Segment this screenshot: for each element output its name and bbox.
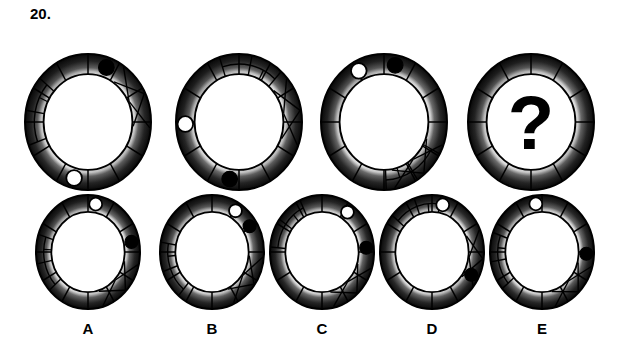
white-dot <box>351 63 367 79</box>
ladder-rung <box>498 248 506 249</box>
white-dot <box>529 197 542 210</box>
sequence-figure-1 <box>13 42 163 202</box>
sequence-figure-4: ? <box>456 42 606 202</box>
white-dot <box>436 198 449 211</box>
black-dot <box>99 60 115 76</box>
white-dot <box>178 116 194 132</box>
answer-option-c[interactable] <box>258 183 386 321</box>
answer-option-a[interactable] <box>24 183 152 321</box>
option-label-c: C <box>302 320 342 337</box>
answer-option-d[interactable] <box>368 183 496 321</box>
answer-option-e[interactable] <box>478 183 606 321</box>
option-label-d: D <box>412 320 452 337</box>
black-dot <box>387 57 403 73</box>
option-label-e: E <box>522 320 562 337</box>
sequence-figure-3 <box>309 42 459 202</box>
option-label-a: A <box>68 320 108 337</box>
black-dot <box>125 235 138 248</box>
sequence-figure-2 <box>164 42 314 202</box>
question-number: 20. <box>30 5 51 22</box>
answer-option-b[interactable] <box>148 183 276 321</box>
sequence-row: ? <box>0 22 642 182</box>
white-dot <box>89 198 102 211</box>
ladder-rung <box>428 204 429 212</box>
black-dot <box>465 268 478 281</box>
question-mark: ? <box>508 80 554 165</box>
options-row: ABCDE <box>0 190 642 350</box>
ladder-rung <box>168 256 176 257</box>
white-dot <box>229 204 242 217</box>
option-label-b: B <box>192 320 232 337</box>
white-dot <box>341 206 354 219</box>
black-dot <box>580 247 593 260</box>
black-dot <box>243 220 256 233</box>
